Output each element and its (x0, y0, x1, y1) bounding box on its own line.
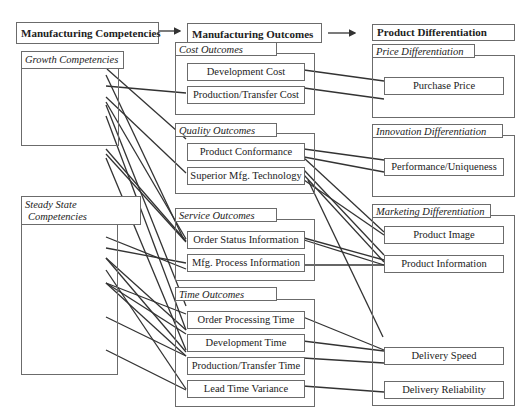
steady-state-title-line2: Competencies (25, 211, 140, 223)
diff-delivery-reliability: Delivery Reliability (384, 381, 504, 399)
steady-state-title-line1: Steady State (25, 199, 140, 211)
outcome-order-processing-time: Order Processing Time (187, 311, 305, 329)
outcome-product-conformance: Product Conformance (187, 143, 305, 161)
diff-delivery-speed: Delivery Speed (384, 347, 504, 365)
header-manufacturing-competencies: Manufacturing Competencies (16, 22, 159, 44)
diff-product-information: Product Information (384, 255, 504, 273)
growth-competencies-title: Growth Competencies (21, 51, 124, 69)
header-product-differentiation: Product Differentiation (372, 24, 515, 41)
cost-outcomes-title: Cost Outcomes (175, 42, 277, 56)
diff-purchase-price: Purchase Price (384, 77, 504, 95)
outcome-order-status-information: Order Status Information (187, 231, 305, 249)
marketing-differentiation-title: Marketing Differentiation (372, 204, 491, 218)
steady-state-competencies-title: Steady State Competencies (21, 196, 141, 225)
time-outcomes-title: Time Outcomes (175, 287, 277, 301)
price-differentiation-title: Price Differentiation (372, 44, 475, 58)
service-outcomes-title: Service Outcomes (175, 208, 277, 222)
outcome-mfg-process-information: Mfg. Process Information (187, 254, 305, 272)
header-manufacturing-outcomes: Manufacturing Outcomes (187, 23, 322, 43)
outcome-production-transfer-time: Production/Transfer Time (187, 357, 305, 375)
outcome-superior-mfg-technology: Superior Mfg. Technology (187, 167, 305, 185)
quality-outcomes-title: Quality Outcomes (175, 123, 277, 137)
outcome-development-time: Development Time (187, 334, 305, 352)
diff-performance-uniqueness: Performance/Uniqueness (384, 158, 504, 176)
outcome-production-transfer-cost: Production/Transfer Cost (187, 86, 305, 104)
outcome-development-cost: Development Cost (187, 63, 305, 81)
diff-product-image: Product Image (384, 226, 504, 244)
innovation-differentiation-title: Innovation Differentiation (372, 124, 503, 138)
outcome-lead-time-variance: Lead Time Variance (187, 380, 305, 398)
